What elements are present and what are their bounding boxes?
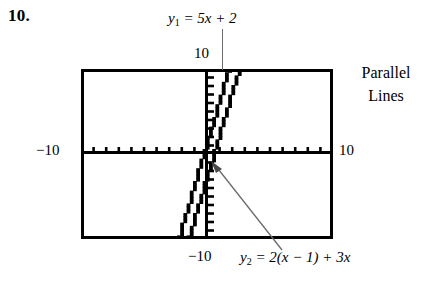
equation-y1-variable: y — [168, 10, 175, 26]
graph-canvas — [81, 69, 333, 239]
figure-page: 10. y1 = 5x + 2 y2 = 2(x − 1) + 3x Paral… — [0, 0, 431, 283]
axis-label-x-min: −10 — [36, 143, 59, 158]
side-note-line-2: Lines — [345, 85, 427, 108]
axis-label-y-max: 10 — [194, 46, 209, 61]
equation-y1-subscript: 1 — [175, 17, 180, 28]
side-note: Parallel Lines — [345, 62, 427, 107]
equation-label-y1: y1 = 5x + 2 — [168, 11, 237, 28]
equation-y2-subscript: 2 — [247, 256, 252, 267]
axis-label-x-max: 10 — [339, 143, 354, 158]
side-note-line-1: Parallel — [345, 62, 427, 85]
equation-y1-expression: = 5x + 2 — [183, 10, 236, 26]
graph-window — [81, 69, 333, 239]
equation-label-y2: y2 = 2(x − 1) + 3x — [240, 250, 350, 267]
problem-number: 10. — [8, 7, 30, 24]
leader-line-y1 — [222, 29, 223, 70]
leader-arrow-shaft — [215, 165, 282, 250]
leader-arrow-y2 — [208, 160, 284, 252]
